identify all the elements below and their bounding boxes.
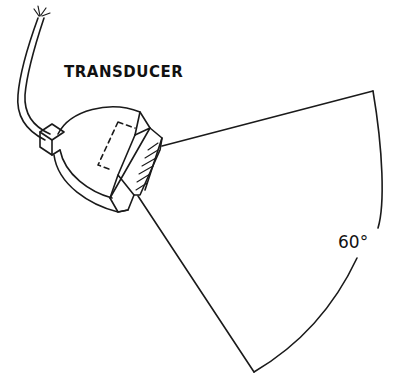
angle-arc-upper: [373, 91, 382, 228]
beam-angle-label: 60°: [338, 232, 368, 252]
transducer-label: TRANSDUCER: [64, 63, 183, 81]
face-element: [110, 128, 162, 212]
housing: [54, 107, 150, 212]
transducer-diagram: TRANSDUCER 60°: [0, 0, 396, 378]
cable: [18, 6, 50, 140]
angle-arc-lower: [254, 258, 357, 372]
